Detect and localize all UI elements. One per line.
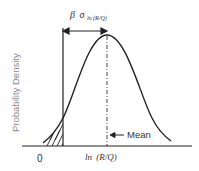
y-axis-label: Probability Density: [10, 53, 21, 132]
mean-arrow: [110, 133, 124, 138]
origin-label: 0: [37, 153, 43, 164]
lognormal-diagram: β σ ln (R/Q) Mean 0 ln (R/Q) Probability…: [0, 0, 199, 171]
beta-sigma-arrow: [63, 28, 107, 34]
mean-label: Mean: [127, 129, 151, 140]
mean-x-label: ln (R/Q): [85, 152, 117, 162]
beta-sigma-label: β σ ln (R/Q): [69, 9, 107, 22]
